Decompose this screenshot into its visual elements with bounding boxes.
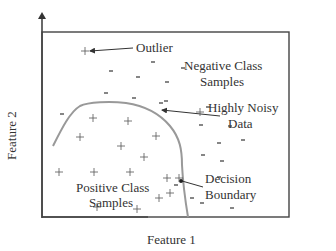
positive-sample-marker	[133, 205, 141, 213]
decision-boundary-label-line2: Boundary	[205, 188, 256, 202]
positive-sample-marker	[163, 174, 171, 182]
noisy-data-label-line1: Highly Noisy	[208, 101, 278, 115]
positive-sample-marker	[166, 189, 174, 197]
positive-class-label-line2: Samples	[89, 196, 133, 210]
noisy-data-label-line2: Data	[228, 117, 253, 131]
negative-class-label-line2: Samples	[200, 75, 244, 89]
negative-class-label-line1: Negative Class	[184, 59, 262, 73]
y-axis-arrow-icon	[38, 12, 46, 19]
positive-class-label-line1: Positive Class	[76, 181, 149, 195]
boundary-point	[179, 179, 183, 183]
positive-sample-marker	[124, 117, 132, 125]
positive-sample-marker	[55, 168, 63, 176]
positive-sample-marker	[155, 194, 163, 202]
outlier-label: Outlier	[136, 41, 173, 55]
decision-boundary-label-line1: Decision	[205, 172, 251, 186]
x-axis-label: Feature 1	[147, 232, 196, 248]
positive-sample-marker	[89, 114, 97, 122]
positive-sample-marker	[76, 133, 84, 141]
outlier-arrow	[90, 48, 133, 51]
y-axis-label: Feature 2	[4, 111, 20, 160]
positive-sample-marker	[90, 168, 98, 176]
positive-sample-marker	[81, 47, 89, 55]
scatter-diagram	[0, 0, 336, 251]
positive-sample-marker	[140, 153, 148, 161]
positive-sample-marker	[117, 142, 125, 150]
boundary-arrow	[182, 181, 203, 187]
positive-sample-marker	[126, 168, 134, 176]
positive-sample-marker	[152, 132, 160, 140]
positive-sample-marker	[196, 108, 204, 116]
